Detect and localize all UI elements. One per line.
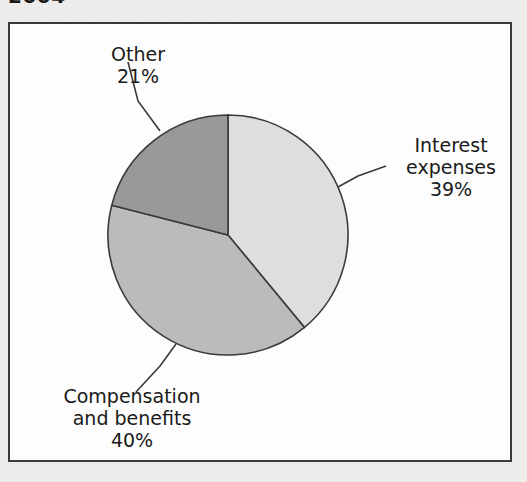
pie-label-other-text: Other [78,44,198,66]
pie-label-compensation-value: 40% [26,430,238,452]
pie-label-compensation-benefits: Compensation and benefits 40% [26,386,238,452]
pie-label-other: Other 21% [78,44,198,88]
leader-line-interest [338,166,386,187]
pie-label-compensation-text-line1: Compensation [26,386,238,408]
pie-label-compensation-text-line2: and benefits [26,408,238,430]
pie-label-interest-text-line1: Interest [388,135,514,157]
pie-label-interest-expenses: Interest expenses 39% [388,135,514,201]
pie-label-interest-value: 39% [388,179,514,201]
pie-label-interest-text-line2: expenses [388,157,514,179]
pie-label-other-value: 21% [78,66,198,88]
pie-slice-group [108,115,348,355]
